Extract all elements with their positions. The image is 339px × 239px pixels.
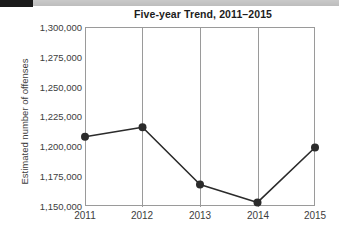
y-tick-label: 1,300,000 — [18, 22, 82, 33]
y-tick-label: 1,225,000 — [18, 111, 82, 122]
x-tick-label-2014: 2014 — [228, 210, 288, 221]
x-tick-label-2011: 2011 — [55, 210, 115, 221]
bottom-scan-artifact — [0, 233, 339, 239]
gridline-2013 — [200, 28, 201, 207]
y-axis-tick-labels: 1,300,000 1,275,000 1,250,000 1,225,000 … — [14, 0, 82, 239]
y-tick-label: 1,250,000 — [18, 82, 82, 93]
plot-area — [85, 27, 315, 206]
gridline-2012 — [142, 28, 143, 207]
x-tick-label-2013: 2013 — [170, 210, 230, 221]
y-tick-label: 1,275,000 — [18, 52, 82, 63]
x-tick-label-2012: 2012 — [112, 210, 172, 221]
gridline-2014 — [258, 28, 259, 207]
x-tick-label-2015: 2015 — [285, 210, 339, 221]
y-tick-label: 1,175,000 — [18, 171, 82, 182]
y-tick-label: 1,200,000 — [18, 141, 82, 152]
chart-title: Five-year Trend, 2011–2015 — [78, 8, 328, 20]
